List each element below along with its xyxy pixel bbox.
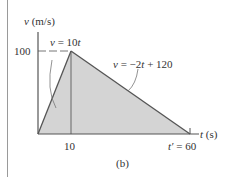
y-tick-100: 100 [14, 45, 31, 57]
x-axis-label: t (s) [200, 128, 218, 141]
x-tick-60: t′ = 60 [168, 140, 197, 152]
x-tick-10: 10 [64, 140, 76, 152]
velocity-time-chart: v (m/s) 100 v = 10t v = −2t + 120 t (s) … [0, 0, 229, 177]
eq2-leader [128, 69, 138, 91]
eq1-label: v = 10t [50, 36, 82, 48]
caption: (b) [116, 157, 129, 170]
eq2-label: v = −2t + 120 [113, 58, 173, 70]
y-axis-label: v (m/s) [24, 15, 55, 28]
